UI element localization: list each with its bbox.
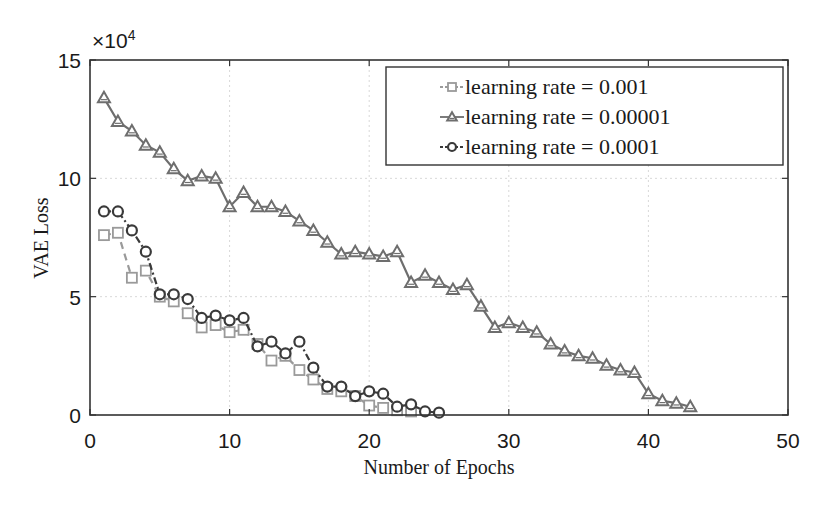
y-tick-label: 15 bbox=[58, 49, 81, 72]
triangle-marker bbox=[112, 116, 124, 127]
circle-marker bbox=[294, 337, 304, 347]
x-tick-label: 50 bbox=[776, 429, 799, 452]
legend-label: learning rate = 0.00001 bbox=[465, 104, 670, 129]
y-axis-title: VAE Loss bbox=[30, 197, 52, 279]
triangle-marker bbox=[559, 345, 571, 356]
circle-marker bbox=[448, 143, 456, 151]
circle-marker bbox=[336, 382, 346, 392]
circle-marker bbox=[239, 313, 249, 323]
y-tick-label: 10 bbox=[58, 167, 81, 190]
triangle-marker bbox=[433, 276, 445, 287]
loss-chart: 01020304050051015 ×104 Number of Epochs … bbox=[0, 0, 824, 507]
square-marker bbox=[308, 375, 318, 385]
circle-marker bbox=[225, 315, 235, 325]
square-marker bbox=[99, 230, 109, 240]
circle-marker bbox=[434, 408, 444, 418]
triangle-marker bbox=[461, 279, 473, 290]
circle-marker bbox=[155, 289, 165, 299]
triangle-marker bbox=[391, 246, 403, 257]
x-tick-label: 40 bbox=[637, 429, 660, 452]
circle-marker bbox=[350, 391, 360, 401]
square-marker bbox=[127, 273, 137, 283]
circle-marker bbox=[113, 206, 123, 216]
circle-marker bbox=[308, 363, 318, 373]
x-tick-label: 0 bbox=[84, 429, 96, 452]
circle-marker bbox=[364, 386, 374, 396]
circle-marker bbox=[392, 402, 402, 412]
series-line bbox=[104, 211, 439, 412]
circle-marker bbox=[406, 399, 416, 409]
square-marker bbox=[266, 356, 276, 366]
triangle-marker bbox=[293, 215, 305, 226]
y-tick-label: 5 bbox=[69, 286, 81, 309]
triangle-marker bbox=[349, 246, 361, 257]
circle-marker bbox=[141, 247, 151, 257]
triangle-marker bbox=[196, 170, 208, 181]
circle-marker bbox=[127, 225, 137, 235]
triangle-marker bbox=[154, 146, 166, 157]
legend-label: learning rate = 0.0001 bbox=[465, 134, 659, 159]
legend: learning rate = 0.001learning rate = 0.0… bbox=[386, 67, 783, 165]
triangle-marker bbox=[503, 317, 515, 328]
circle-marker bbox=[169, 289, 179, 299]
square-marker bbox=[113, 228, 123, 238]
x-tick-label: 20 bbox=[358, 429, 381, 452]
legend-entry: learning rate = 0.001 bbox=[440, 74, 648, 99]
circle-marker bbox=[266, 337, 276, 347]
series-circle bbox=[99, 206, 444, 417]
legend-entry: learning rate = 0.0001 bbox=[440, 134, 659, 159]
triangle-marker bbox=[656, 395, 668, 406]
triangle-marker bbox=[405, 276, 417, 287]
square-marker bbox=[225, 327, 235, 337]
circle-marker bbox=[280, 348, 290, 358]
circle-marker bbox=[253, 341, 263, 351]
triangle-marker bbox=[238, 187, 250, 198]
triangle-marker bbox=[419, 269, 431, 280]
triangle-marker bbox=[601, 359, 613, 370]
x-tick-label: 10 bbox=[218, 429, 241, 452]
y-multiplier: ×104 bbox=[92, 27, 136, 52]
triangle-marker bbox=[98, 92, 110, 103]
square-marker bbox=[183, 308, 193, 318]
x-axis-title: Number of Epochs bbox=[363, 456, 514, 479]
legend-label: learning rate = 0.001 bbox=[465, 74, 648, 99]
circle-marker bbox=[99, 206, 109, 216]
triangle-marker bbox=[307, 224, 319, 235]
square-marker bbox=[448, 83, 456, 91]
legend-entry: learning rate = 0.00001 bbox=[440, 104, 670, 129]
x-tick-label: 30 bbox=[497, 429, 520, 452]
square-marker bbox=[141, 266, 151, 276]
circle-marker bbox=[183, 294, 193, 304]
triangle-marker bbox=[126, 125, 138, 136]
square-marker bbox=[378, 403, 388, 413]
circle-marker bbox=[197, 313, 207, 323]
y-tick-label: 0 bbox=[69, 404, 81, 427]
circle-marker bbox=[378, 389, 388, 399]
circle-marker bbox=[322, 382, 332, 392]
square-marker bbox=[294, 365, 304, 375]
circle-marker bbox=[211, 311, 221, 321]
series-line bbox=[104, 233, 411, 412]
